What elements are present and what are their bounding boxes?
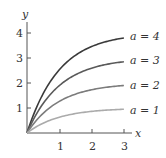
y-ticks bbox=[27, 33, 31, 108]
legend-label-a1: a = 1 bbox=[130, 104, 160, 117]
legend-label-a3: a = 3 bbox=[130, 54, 160, 67]
curve-a1 bbox=[27, 109, 124, 133]
x-axis-label: x bbox=[135, 127, 142, 140]
y-tick-label: 2 bbox=[16, 77, 23, 90]
chart: 1 2 3 4 1 2 3 y x a = 4 a = 3 a = 2 a = … bbox=[0, 0, 166, 158]
legend-label-a4: a = 4 bbox=[130, 30, 160, 43]
curves bbox=[27, 38, 124, 133]
x-tick-label: 3 bbox=[121, 140, 128, 153]
y-tick-label: 1 bbox=[16, 102, 23, 115]
y-tick-label: 4 bbox=[16, 27, 23, 40]
x-tick-label: 1 bbox=[57, 140, 64, 153]
x-ticks bbox=[60, 129, 124, 133]
x-tick-label: 2 bbox=[89, 140, 96, 153]
curve-a4 bbox=[27, 38, 124, 133]
y-tick-label: 3 bbox=[16, 52, 23, 65]
legend-label-a2: a = 2 bbox=[130, 79, 160, 92]
y-axis-label: y bbox=[21, 8, 29, 21]
